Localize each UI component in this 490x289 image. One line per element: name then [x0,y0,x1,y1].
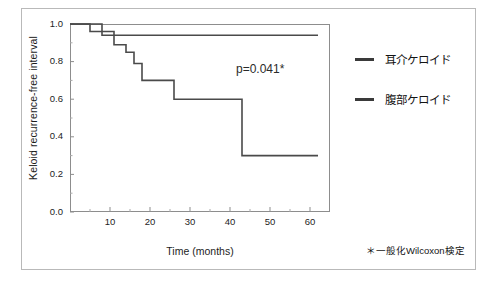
km-curve-auricular [70,24,318,35]
x-tick-label: 60 [297,216,323,227]
x-tick-label: 10 [97,216,123,227]
legend-item-label: 腹部ケロイド [385,91,451,107]
figure-container: 1.0 0.8 0.6 0.4 0.2 0.0 10 20 30 40 50 6… [0,0,490,289]
legend-line-icon [355,58,374,61]
legend-item-auricular: 耳介ケロイド [355,52,480,66]
y-axis-minor-ticks [70,43,73,193]
y-axis-title: Keloid recurrence-free interval [27,13,39,203]
legend-item-label: 耳介ケロイド [385,51,451,67]
x-axis-title: Time (months) [70,245,330,257]
legend-line-icon [355,98,374,101]
plot-svg [70,24,330,212]
p-value-annotation: p=0.041* [236,62,284,76]
kaplan-meier-chart: 1.0 0.8 0.6 0.4 0.2 0.0 10 20 30 40 50 6… [0,0,345,270]
chart-legend: 耳介ケロイド 腹部ケロイド [355,52,480,132]
legend-item-abdominal: 腹部ケロイド [355,92,480,106]
x-tick-label: 50 [257,216,283,227]
footnote-text: ＊一般化Wilcoxon検定 [366,243,465,257]
x-tick-label: 20 [137,216,163,227]
km-curve-abdominal [70,24,318,156]
x-tick-label: 40 [217,216,243,227]
y-tick-label: 0.0 [33,206,63,217]
x-tick-label: 30 [177,216,203,227]
